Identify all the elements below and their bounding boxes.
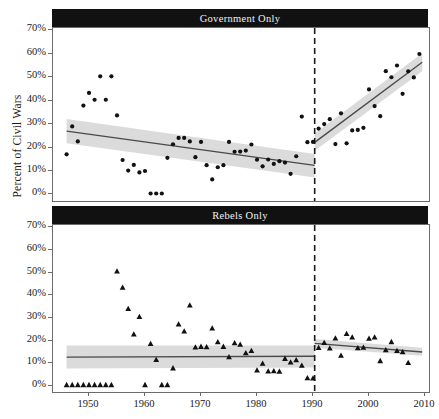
- y-axis-tick-mark: [48, 29, 52, 30]
- x-axis-tick-mark: [424, 392, 425, 396]
- panel-header-rebels-only: Rebels Only: [52, 206, 428, 224]
- y-axis-tick-label: 20%: [14, 333, 46, 344]
- y-axis-tick-label: 20%: [14, 140, 46, 151]
- y-axis-tick-mark: [48, 147, 52, 148]
- x-axis-tick-mark: [88, 392, 89, 396]
- y-axis-tick-label: 50%: [14, 69, 46, 80]
- x-axis-tick-label: 1950: [68, 398, 108, 409]
- y-axis-tick-label: 50%: [14, 265, 46, 276]
- y-axis-tick-mark: [48, 340, 52, 341]
- y-axis-tick-mark: [48, 385, 52, 386]
- y-axis-tick-mark: [48, 226, 52, 227]
- x-axis-tick-label: 2010: [404, 398, 439, 409]
- y-axis-tick-label: 0%: [14, 186, 46, 197]
- y-axis-tick-mark: [48, 170, 52, 171]
- y-axis-tick-mark: [48, 53, 52, 54]
- scatter-svg-government-only: [53, 28, 429, 201]
- x-axis-tick-label: 2000: [348, 398, 388, 409]
- x-axis-tick-label: 1980: [236, 398, 276, 409]
- x-axis-tick-mark: [200, 392, 201, 396]
- y-axis-tick-mark: [48, 317, 52, 318]
- y-axis-tick-label: 0%: [14, 378, 46, 389]
- x-axis-tick-mark: [256, 392, 257, 396]
- y-axis-tick-label: 10%: [14, 355, 46, 366]
- y-axis-tick-label: 10%: [14, 163, 46, 174]
- y-axis-tick-mark: [48, 123, 52, 124]
- panel-header-government-only: Government Only: [52, 9, 428, 27]
- y-axis-tick-label: 70%: [14, 22, 46, 33]
- y-axis-tick-label: 70%: [14, 219, 46, 230]
- y-axis-tick-mark: [48, 294, 52, 295]
- y-axis-tick-mark: [48, 100, 52, 101]
- y-axis-tick-label: 40%: [14, 93, 46, 104]
- y-axis-tick-label: 60%: [14, 242, 46, 253]
- panel-title: Government Only: [200, 13, 281, 24]
- x-axis-tick-label: 1970: [180, 398, 220, 409]
- x-axis-tick-mark: [312, 392, 313, 396]
- panel-title: Rebels Only: [212, 210, 268, 221]
- y-axis-tick-label: 30%: [14, 310, 46, 321]
- panel-government-only: Government Only: [52, 9, 428, 201]
- y-axis-tick-mark: [48, 272, 52, 273]
- x-axis-tick-label: 1990: [292, 398, 332, 409]
- plot-area-rebels-only: [52, 224, 430, 393]
- plot-area-government-only: [52, 27, 430, 202]
- y-axis-tick-label: 40%: [14, 287, 46, 298]
- y-axis-tick-mark: [48, 193, 52, 194]
- y-axis-tick-label: 30%: [14, 116, 46, 127]
- y-axis-tick-mark: [48, 249, 52, 250]
- y-axis-tick-label: 60%: [14, 46, 46, 57]
- scatter-svg-rebels-only: [53, 225, 429, 392]
- panel-rebels-only: Rebels Only: [52, 206, 428, 392]
- x-axis-tick-mark: [368, 392, 369, 396]
- y-axis-tick-mark: [48, 362, 52, 363]
- x-axis-tick-label: 1960: [124, 398, 164, 409]
- y-axis-tick-mark: [48, 76, 52, 77]
- x-axis-tick-mark: [144, 392, 145, 396]
